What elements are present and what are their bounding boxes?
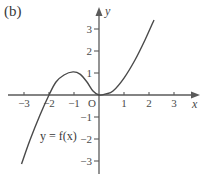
x-tick-label: −3: [18, 97, 30, 109]
y-tick-label: −1: [80, 111, 92, 123]
y-tick-label: 3: [87, 23, 93, 35]
origin-label: O: [88, 97, 96, 109]
x-tick-label: −1: [68, 97, 80, 109]
y-axis-label: y: [104, 4, 111, 18]
y-tick-label: 2: [87, 45, 93, 57]
x-tick-label: 1: [121, 97, 127, 109]
x-tick-label: 2: [146, 97, 152, 109]
y-tick-label: −3: [80, 155, 92, 167]
y-tick-label: 1: [87, 67, 93, 79]
y-tick-label: −2: [80, 133, 92, 145]
function-label: y = f(x): [40, 129, 77, 143]
x-tick-label: 3: [171, 97, 177, 109]
x-axis-label: x: [191, 97, 198, 111]
y-axis-arrow-icon: [96, 7, 103, 16]
function-graph: −3−2−1123 −3−2−1123 x y O y = f(x): [0, 0, 204, 174]
